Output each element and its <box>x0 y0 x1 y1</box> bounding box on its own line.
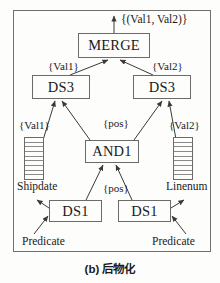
label-pos-lower: {pos} <box>103 182 129 194</box>
edge-predicate-right-to-ds1right <box>172 216 186 234</box>
ladder-shipdate-column <box>24 137 44 180</box>
edge-and1-to-ds3left <box>62 101 90 140</box>
edge-ds1right-to-linenum <box>171 200 184 208</box>
label-val1-upper: {Val1} <box>48 60 79 72</box>
edge-ds3right-to-merge <box>120 60 153 75</box>
label-output-tuple: {(Val1, Val2)} <box>121 13 187 25</box>
edge-predicate-left-to-ds1left <box>34 216 48 234</box>
node-ds1-left[interactable]: DS1 <box>49 200 102 222</box>
label-predicate-right: Predicate <box>152 235 195 247</box>
label-predicate-left: Predicate <box>22 235 65 247</box>
node-merge[interactable]: MERGE <box>78 33 150 58</box>
edge-ds1left-to-and1 <box>86 165 103 200</box>
label-val1-middle: {Val1} <box>19 119 50 131</box>
ladder-linenum-column <box>173 137 193 180</box>
node-and1[interactable]: AND1 <box>85 140 139 163</box>
label-linenum: Linenum <box>166 180 208 192</box>
node-ds3-left[interactable]: DS3 <box>32 75 90 99</box>
label-pos-upper: {pos} <box>103 117 129 129</box>
figure-page: MERGE DS3 DS3 AND1 DS1 DS1 {(Val1, Val2)… <box>0 0 220 283</box>
node-ds3-right[interactable]: DS3 <box>133 75 191 99</box>
node-ds1-right[interactable]: DS1 <box>118 200 171 222</box>
ladder-rung <box>25 175 43 179</box>
ladder-rung <box>174 175 192 179</box>
label-val2-upper: {Val2} <box>152 60 183 72</box>
label-shipdate: Shipdate <box>17 180 57 192</box>
figure-caption: (b) 后物化 <box>0 260 220 276</box>
edge-and1-to-ds3right <box>134 101 162 140</box>
label-val2-middle: {Val2} <box>169 119 200 131</box>
edge-ds1left-to-shipdate <box>37 200 49 208</box>
